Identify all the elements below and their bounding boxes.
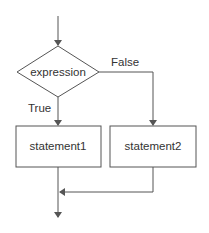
false-branch-arrow [99,72,153,125]
true-branch-label: True [28,102,51,114]
statement2-label: statement2 [125,140,182,152]
statement1-label: statement1 [30,140,87,152]
statement2-node: statement2 [110,126,196,167]
merge-arrow [60,167,153,192]
if-else-flowchart: expression True False statement1 stateme… [0,0,209,233]
statement1-node: statement1 [16,126,101,167]
false-branch-label: False [111,56,139,68]
decision-label: expression [30,66,86,78]
decision-node: expression [17,46,99,97]
